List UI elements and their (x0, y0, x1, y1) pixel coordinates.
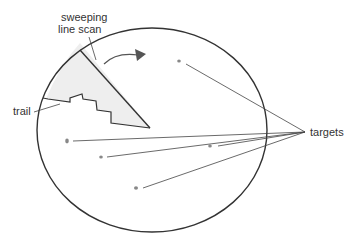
target-dot (208, 145, 212, 148)
target-dot (134, 186, 138, 190)
sweep-label-line1: sweeping (61, 11, 107, 23)
targets-label: targets (310, 126, 344, 138)
arrowhead-icon (135, 49, 146, 61)
target-leader (143, 132, 305, 188)
sweep-label-line2: line scan (58, 23, 101, 35)
target-leader (218, 132, 305, 146)
radar-diagram: sweeping line scan trail targets (0, 0, 355, 241)
target-dot (65, 139, 69, 144)
target-dot (177, 60, 181, 63)
trail-label: trail (13, 105, 31, 117)
trail-label-leader (34, 104, 60, 112)
rotation-arrow-icon (104, 54, 138, 64)
trail-wedge (46, 43, 150, 128)
target-leader (186, 64, 305, 132)
target-dot (99, 156, 103, 159)
